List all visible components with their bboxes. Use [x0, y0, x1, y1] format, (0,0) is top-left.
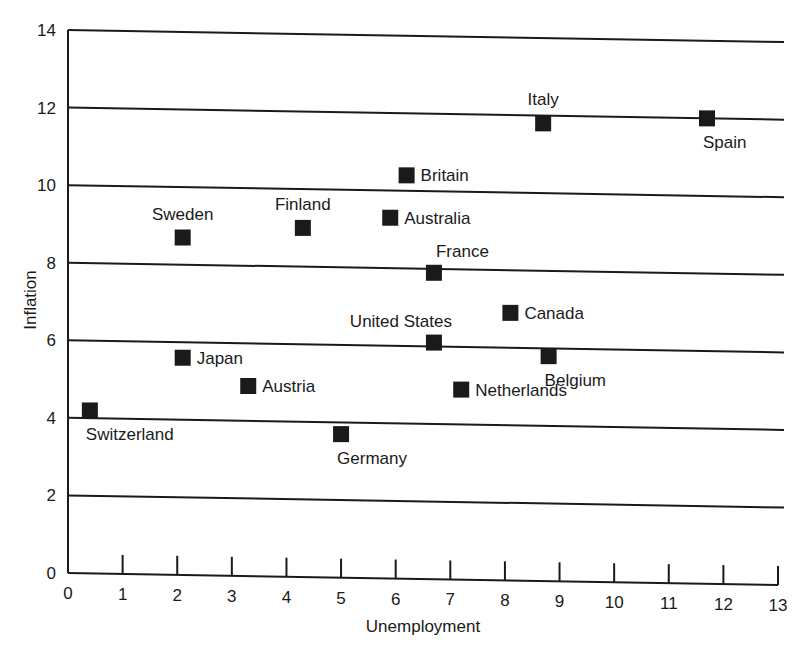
point-label: Sweden: [152, 205, 213, 224]
x-tick-label: 11: [660, 594, 678, 613]
data-point: Sweden: [152, 205, 213, 246]
square-marker-icon: [699, 110, 715, 126]
point-label: Australia: [404, 209, 471, 228]
square-marker-icon: [82, 402, 98, 418]
x-tick-label: 12: [714, 595, 733, 614]
data-point: Britain: [399, 166, 469, 185]
square-marker-icon: [240, 378, 256, 394]
data-point: Italy: [528, 90, 560, 131]
square-marker-icon: [382, 210, 398, 226]
y-tick-label: 12: [37, 99, 56, 118]
data-point: Germany: [333, 426, 407, 468]
gridline: [68, 185, 784, 197]
y-tick-label: 8: [47, 254, 56, 273]
y-tick-label: 6: [47, 331, 56, 350]
x-tick-label: 9: [555, 592, 564, 611]
square-marker-icon: [426, 335, 442, 351]
x-tick-label: 4: [282, 588, 291, 607]
point-label: Finland: [275, 195, 331, 214]
point-label: Italy: [528, 90, 560, 109]
point-label: United States: [350, 312, 452, 331]
data-points: SwitzerlandJapanAustriaSwedenFinlandGerm…: [82, 90, 747, 468]
gridline: [68, 418, 784, 430]
data-point: Canada: [502, 304, 584, 323]
x-tick-label: 7: [446, 590, 455, 609]
data-point: Spain: [699, 110, 746, 152]
square-marker-icon: [502, 305, 518, 321]
gridline: [68, 108, 784, 120]
point-label: Austria: [262, 377, 315, 396]
square-marker-icon: [426, 265, 442, 281]
x-tick-label: 5: [336, 589, 345, 608]
gridline: [68, 495, 784, 507]
square-marker-icon: [333, 426, 349, 442]
y-tick-label: 14: [37, 21, 56, 40]
x-tick-label: 2: [172, 586, 181, 605]
square-marker-icon: [295, 220, 311, 236]
point-label: Belgium: [545, 371, 606, 390]
point-label: Japan: [197, 349, 243, 368]
gridline: [68, 30, 784, 42]
y-axis-title: Inflation: [21, 270, 40, 330]
x-tick-label: 6: [391, 590, 400, 609]
square-marker-icon: [175, 230, 191, 246]
data-point: Austria: [240, 377, 315, 396]
x-axis-title: Unemployment: [366, 617, 481, 636]
data-point: Belgium: [541, 348, 606, 390]
x-tick-label: 0: [63, 584, 72, 603]
scatter-chart: 02468101214 012345678910111213 Switzerla…: [0, 0, 808, 659]
point-label: France: [436, 242, 489, 261]
point-label: Britain: [421, 166, 469, 185]
x-tick-label: 10: [605, 593, 624, 612]
y-tick-label: 2: [47, 486, 56, 505]
x-tick-label: 13: [769, 596, 788, 615]
x-tick-label: 8: [500, 591, 509, 610]
y-tick-label: 0: [47, 564, 56, 583]
square-marker-icon: [541, 348, 557, 364]
point-label: Germany: [337, 449, 407, 468]
square-marker-icon: [535, 115, 551, 131]
point-label: Spain: [703, 133, 746, 152]
data-point: Australia: [382, 209, 471, 228]
data-point: Finland: [275, 195, 331, 236]
x-axis-ticks: 012345678910111213: [63, 555, 787, 615]
x-axis-line: [68, 573, 778, 585]
square-marker-icon: [453, 382, 469, 398]
data-point: Japan: [175, 349, 243, 368]
y-tick-label: 10: [37, 176, 56, 195]
data-point: Switzerland: [82, 402, 174, 444]
x-tick-label: 3: [227, 587, 236, 606]
square-marker-icon: [175, 350, 191, 366]
square-marker-icon: [399, 167, 415, 183]
data-point: France: [426, 242, 489, 281]
point-label: Canada: [524, 304, 584, 323]
x-tick-label: 1: [118, 585, 127, 604]
point-label: Switzerland: [86, 425, 174, 444]
y-tick-label: 4: [47, 409, 56, 428]
